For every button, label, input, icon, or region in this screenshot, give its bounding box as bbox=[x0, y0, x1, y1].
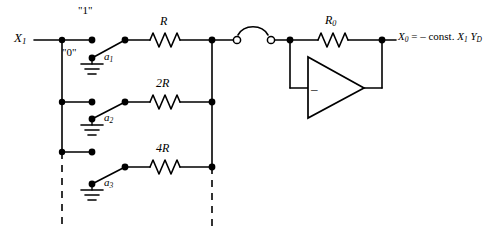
switch-a3-label: a3 bbox=[104, 177, 113, 189]
contact-1-terminal-a2 bbox=[89, 99, 96, 106]
resistor-4R-zigzag bbox=[150, 160, 180, 174]
logic-high-label: "1" bbox=[78, 5, 92, 16]
input-signal-label: X1 bbox=[14, 31, 26, 46]
feedback-R0-zigzag bbox=[318, 33, 348, 47]
output-group bbox=[364, 37, 396, 88]
switch-a2-label: a2 bbox=[104, 112, 113, 124]
series-switch-terminal-left[interactable] bbox=[233, 36, 240, 43]
branch-2-group bbox=[59, 99, 96, 106]
output-equation-label: X0 = – const. X1 YD bbox=[398, 31, 482, 43]
switch-a1-label: a1 bbox=[104, 51, 113, 63]
summing-node-3 bbox=[209, 164, 216, 171]
switch-a2-group[interactable] bbox=[81, 102, 125, 135]
feedback-resistor-label: R0 bbox=[325, 14, 336, 28]
feedback-resistor-R0-branch bbox=[290, 33, 382, 47]
input-bus-group bbox=[34, 40, 62, 228]
switch-a1-group[interactable] bbox=[81, 40, 125, 74]
branch-3-group bbox=[59, 149, 96, 156]
branch-2-bus-node bbox=[59, 99, 65, 105]
resistor-2R-label: 2R bbox=[156, 77, 169, 89]
logic-low-label: "0" bbox=[62, 47, 76, 58]
amplifier-inverting-input-sign: – bbox=[311, 81, 318, 97]
resistor-4R-label: 4R bbox=[156, 142, 169, 154]
resistor-2R-branch bbox=[122, 95, 212, 109]
switch-a3-group[interactable] bbox=[81, 167, 125, 200]
resistor-R-branch bbox=[122, 33, 212, 47]
circuit-diagram: X1 "1" "0" a1 a2 a3 R 2R 4R R0 – X0 = – … bbox=[0, 0, 492, 240]
series-switch-group[interactable] bbox=[212, 27, 290, 44]
branch-1-bus-node bbox=[59, 37, 65, 43]
series-switch-terminal-right[interactable] bbox=[267, 36, 274, 43]
output-equation-body: = – const. bbox=[411, 30, 454, 42]
resistor-2R-zigzag bbox=[150, 95, 180, 109]
branch-3-bus-node bbox=[59, 149, 65, 155]
resistor-R-label: R bbox=[160, 15, 167, 27]
summing-node-2 bbox=[209, 99, 216, 106]
branch-1-group bbox=[59, 37, 96, 44]
summing-bus-group bbox=[209, 37, 216, 228]
contact-1-terminal-a1 bbox=[89, 37, 96, 44]
series-switch-arc-blade[interactable] bbox=[238, 27, 268, 35]
resistor-R-zigzag bbox=[150, 33, 180, 47]
resistor-4R-branch bbox=[122, 160, 212, 174]
contact-1-terminal-a3 bbox=[89, 149, 96, 156]
